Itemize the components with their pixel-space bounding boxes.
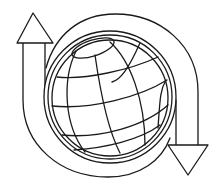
globe-outer-ring [44, 31, 176, 163]
arrow-down-icon [168, 145, 208, 175]
arrow-up-icon [17, 13, 53, 43]
globe-exchange-illustration [0, 0, 221, 189]
